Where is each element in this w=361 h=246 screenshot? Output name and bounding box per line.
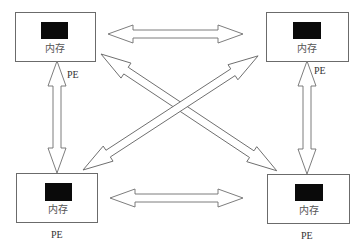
double-arrow-right bbox=[298, 61, 316, 174]
memory-label-bottom-left: 内存 bbox=[38, 205, 78, 215]
pe-label-bottom-right: PE bbox=[301, 231, 313, 241]
pe-label-top-left: PE bbox=[67, 70, 79, 80]
double-arrow-bottom bbox=[110, 189, 243, 207]
double-arrow-left bbox=[48, 61, 66, 173]
memory-block-top-right bbox=[293, 22, 321, 39]
memory-label-top-left: 内存 bbox=[35, 44, 75, 54]
double-arrow-top bbox=[108, 25, 243, 43]
memory-block-bottom-right bbox=[295, 184, 323, 201]
double-arrow-diagonal-bottomleft-topright bbox=[78, 48, 263, 177]
pe-label-bottom-left: PE bbox=[51, 230, 63, 240]
memory-label-top-right: 内存 bbox=[287, 44, 327, 54]
memory-block-bottom-left bbox=[45, 183, 72, 201]
pe-label-top-right: PE bbox=[314, 66, 326, 76]
double-arrow-diagonal-topleft-bottomright bbox=[96, 47, 282, 179]
memory-block-top-left bbox=[41, 22, 68, 39]
memory-label-bottom-right: 内存 bbox=[289, 206, 329, 216]
